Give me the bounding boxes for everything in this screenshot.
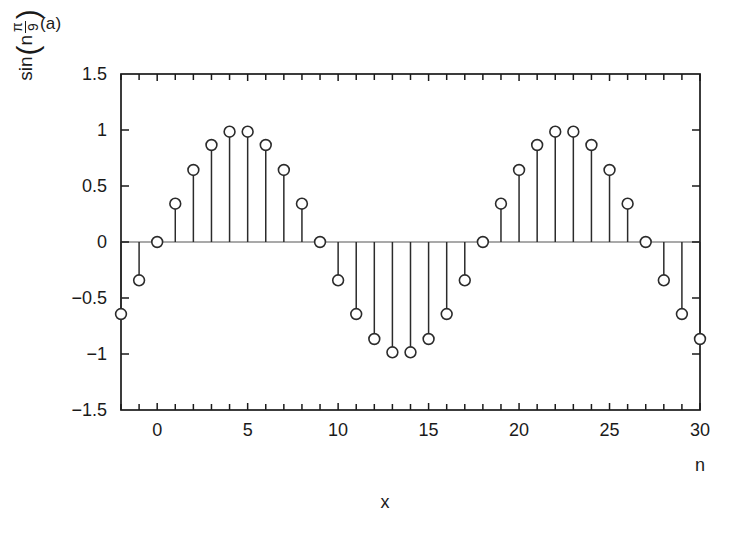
data-point-marker xyxy=(170,198,181,209)
data-point-marker xyxy=(677,309,688,320)
figure-panel: (a) sin(nπ9) x n 0510152025301.510.50−0.… xyxy=(0,0,730,535)
data-point-marker xyxy=(278,165,289,176)
x-tick-label-0: 0 xyxy=(152,420,162,441)
x-tick-label-20: 20 xyxy=(509,420,529,441)
data-point-marker xyxy=(550,126,561,137)
data-point-marker xyxy=(242,126,253,137)
data-point-marker xyxy=(441,309,452,320)
data-point-marker xyxy=(260,140,271,151)
data-point-marker xyxy=(387,347,398,358)
data-point-marker xyxy=(206,140,217,151)
y-tick-label-0neg5: 0.5 xyxy=(0,176,107,197)
data-point-marker xyxy=(477,237,488,248)
data-point-marker xyxy=(134,275,145,286)
data-point-marker xyxy=(514,165,525,176)
x-tick-label-5: 5 xyxy=(243,420,253,441)
x-tick-label-15: 15 xyxy=(419,420,439,441)
data-point-marker xyxy=(224,126,235,137)
data-point-marker xyxy=(568,126,579,137)
data-point-marker xyxy=(297,198,308,209)
data-point-marker xyxy=(116,309,127,320)
data-point-marker xyxy=(496,198,507,209)
data-point-marker xyxy=(459,275,470,286)
y-tick-label-1: 1 xyxy=(0,120,107,141)
data-point-marker xyxy=(423,334,434,345)
data-point-marker xyxy=(315,237,326,248)
y-tick-label-0: 0 xyxy=(0,232,107,253)
data-point-marker xyxy=(640,237,651,248)
data-point-marker xyxy=(351,309,362,320)
data-point-marker xyxy=(622,198,633,209)
y-tick-label-1neg5: 1.5 xyxy=(0,64,107,85)
x-axis-label: x xyxy=(381,492,390,513)
stem-plot-canvas xyxy=(0,0,730,535)
data-point-marker xyxy=(369,334,380,345)
data-point-marker xyxy=(188,165,199,176)
data-point-marker xyxy=(405,347,416,358)
x-tick-label-10: 10 xyxy=(328,420,348,441)
x-axis-variable-label: n xyxy=(695,455,705,476)
data-point-marker xyxy=(604,165,615,176)
y-tick-label-neg1-5: −1.5 xyxy=(0,400,107,421)
data-point-marker xyxy=(333,275,344,286)
y-tick-label-neg0-5: −0.5 xyxy=(0,288,107,309)
x-tick-label-30: 30 xyxy=(690,420,710,441)
data-point-marker xyxy=(532,140,543,151)
x-tick-label-25: 25 xyxy=(600,420,620,441)
data-point-marker xyxy=(695,334,706,345)
data-point-marker xyxy=(586,140,597,151)
data-point-marker xyxy=(152,237,163,248)
y-tick-label-neg1: −1 xyxy=(0,344,107,365)
data-point-marker xyxy=(658,275,669,286)
panel-label: (a) xyxy=(40,14,61,34)
